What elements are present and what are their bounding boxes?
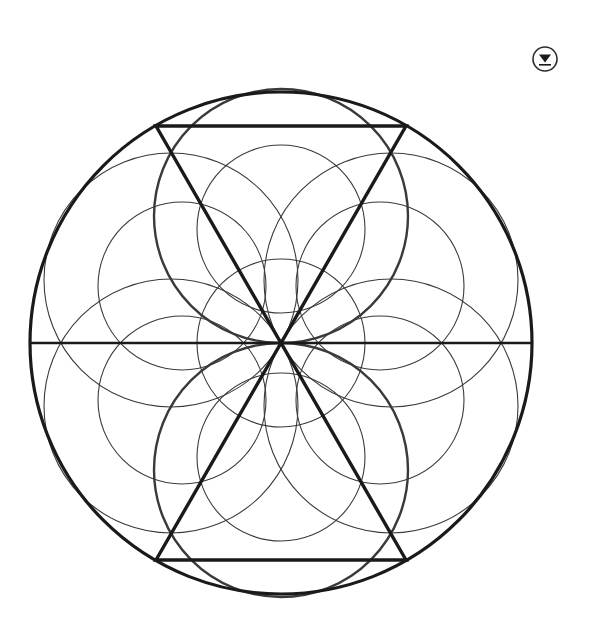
- small-circle-lower-right: [296, 316, 464, 484]
- figure-canvas: [0, 0, 593, 626]
- small-circle-bottom: [197, 373, 365, 541]
- small-circle-lower-left: [98, 316, 266, 484]
- hexagram-triangle-up: [156, 126, 406, 343]
- sacred-geometry-diagram: [0, 0, 593, 626]
- small-circle-upper-left: [98, 202, 266, 370]
- download-button[interactable]: [531, 45, 559, 73]
- download-icon: [531, 45, 559, 73]
- hexagram-triangle-down: [156, 343, 406, 560]
- small-circle-upper-right: [296, 202, 464, 370]
- small-circle-top: [197, 145, 365, 313]
